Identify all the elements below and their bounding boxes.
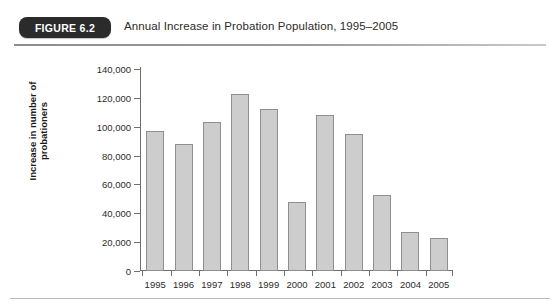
bar	[345, 134, 363, 271]
y-axis-tick	[134, 127, 140, 128]
x-axis-tick-label: 1996	[173, 279, 194, 290]
x-axis-tick-label: 2000	[286, 279, 307, 290]
y-axis-title-line-1: Increase in number of	[27, 46, 38, 216]
x-axis-tick	[256, 271, 257, 276]
header-divider	[14, 44, 546, 46]
bar	[373, 195, 391, 271]
figure-caption: Annual Increase in Probation Population,…	[124, 20, 398, 32]
x-axis-tick-label: 2005	[428, 279, 449, 290]
y-axis-tick	[134, 98, 140, 99]
bar	[231, 94, 249, 271]
y-axis-tick-label: 100,000	[97, 121, 131, 132]
footer-divider	[10, 298, 550, 299]
figure-number-badge: FIGURE 6.2	[19, 17, 111, 38]
y-axis-tick	[134, 69, 140, 70]
bar	[430, 238, 448, 271]
x-axis-tick-label: 1997	[201, 279, 222, 290]
x-axis-tick	[312, 271, 313, 276]
y-axis-tick-label: 60,000	[102, 179, 131, 190]
y-axis-tick	[134, 184, 140, 185]
y-axis-tick-label: 0	[126, 266, 131, 277]
x-axis-tick	[341, 271, 342, 276]
x-axis-tick	[284, 271, 285, 276]
y-axis-tick-label: 80,000	[102, 150, 131, 161]
bar	[146, 131, 164, 271]
y-axis-tick	[134, 271, 140, 272]
x-axis-tick-label: 2003	[372, 279, 393, 290]
y-axis-tick-label: 120,000	[97, 92, 131, 103]
x-axis-tick	[199, 271, 200, 276]
x-axis-tick-label: 2004	[400, 279, 421, 290]
figure-header: FIGURE 6.2 Annual Increase in Probation …	[0, 0, 557, 52]
y-axis-tick	[134, 213, 140, 214]
x-axis-tick-label: 2001	[315, 279, 336, 290]
x-axis-tick	[426, 271, 427, 276]
y-axis-line	[140, 67, 141, 271]
bar	[401, 232, 419, 271]
y-axis-tick-label: 40,000	[102, 208, 131, 219]
y-axis-tick-label: 20,000	[102, 237, 131, 248]
x-axis-tick-label: 1995	[145, 279, 166, 290]
bar	[288, 202, 306, 271]
y-axis-title: Increase in number of probationers	[27, 46, 49, 216]
bar-chart: Increase in number of probationers 020,0…	[0, 52, 557, 300]
bar	[203, 122, 221, 271]
x-axis-tick	[452, 271, 453, 276]
y-axis-tick	[134, 242, 140, 243]
y-axis-tick-label: 140,000	[97, 64, 131, 75]
x-axis-tick	[227, 271, 228, 276]
x-axis-tick-label: 1998	[230, 279, 251, 290]
y-axis-tick	[134, 156, 140, 157]
bar	[260, 109, 278, 271]
x-axis-tick-label: 1999	[258, 279, 279, 290]
x-axis-tick	[397, 271, 398, 276]
x-axis-tick	[369, 271, 370, 276]
x-axis-tick	[142, 271, 143, 276]
plot-area: 020,00040,00060,00080,000100,000120,0001…	[140, 69, 452, 271]
bar	[175, 144, 193, 271]
figure-number-label: FIGURE 6.2	[35, 22, 95, 34]
y-axis-title-line-2: probationers	[38, 46, 49, 216]
x-axis-tick-label: 2002	[343, 279, 364, 290]
bar	[316, 115, 334, 271]
x-axis-tick	[171, 271, 172, 276]
